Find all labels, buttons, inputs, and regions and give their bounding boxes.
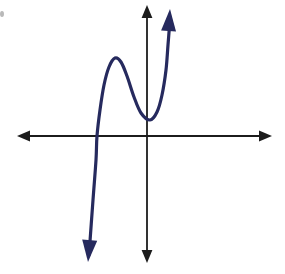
scan-speck-artifact — [0, 11, 4, 17]
graph-figure — [0, 0, 285, 274]
figure-background — [0, 0, 285, 274]
coordinate-plane-svg — [0, 0, 285, 274]
